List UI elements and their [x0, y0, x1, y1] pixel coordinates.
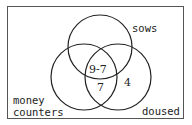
circle-money-counters	[51, 44, 117, 110]
label-counters: counters	[13, 107, 64, 118]
label-money: money	[13, 95, 45, 106]
label-doused: doused	[142, 106, 180, 117]
circle-doused	[85, 44, 151, 110]
region-value-doused-only: 4	[124, 76, 131, 89]
region-value-all-three: 7	[97, 81, 104, 94]
label-sows: sows	[132, 23, 157, 34]
region-value-9-7: 9-7	[89, 63, 107, 76]
